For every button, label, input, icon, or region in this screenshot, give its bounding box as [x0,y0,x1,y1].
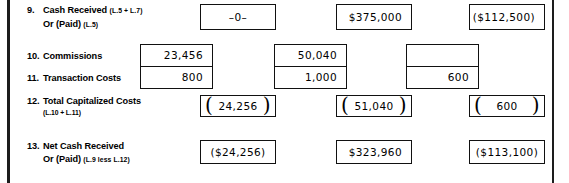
form-left-rule [7,0,10,183]
value-box-line9-col1[interactable]: –0– [200,4,276,30]
row-label-line-10: 10.Commissions [27,50,102,63]
row-number-13: 13. [27,140,43,153]
stacked-box-col1: 23,456 800 [140,44,213,89]
value-box-line13-col1[interactable]: ($24,256) [200,140,276,164]
value-box-line13-col2[interactable]: $323,960 [336,140,412,164]
row-number-9: 9. [27,4,43,17]
paren-close-icon: ) [263,95,271,115]
row-label-line-13: 13.Net Cash Received Or (Paid) (L.9 less… [27,140,130,166]
row-number-11: 11. [27,72,43,85]
stacked-box-col3: 600 [406,44,479,89]
row-title-11: Transaction Costs [43,73,121,83]
stacked-box-col2: 50,040 1,000 [274,44,347,89]
row-ref-9b: (L.5) [83,21,98,28]
value-box-line11-col3[interactable]: 600 [407,67,478,89]
form-right-rule [552,0,554,183]
row-ref-12: (L.10 + L.11) [27,108,141,118]
worksheet-figure: 9.Cash Received (L.5 + L.7) Or (Paid) (L… [0,0,569,183]
value-box-line13-col3[interactable]: ($113,100) [469,140,545,164]
row-title-9-line2: Or (Paid) [43,19,81,29]
row-title-13-line2: Or (Paid) [43,154,81,164]
value-box-line12-col2[interactable]: ( 51,040 ) [336,95,412,117]
value-line12-col3: 600 [482,100,532,112]
value-box-line10-col2[interactable]: 50,040 [275,45,346,67]
row-title-9: Cash Received [43,5,107,15]
value-line12-col1: 24,256 [213,100,263,112]
paren-close-icon: ) [532,95,540,115]
paren-open-icon: ( [474,95,482,115]
value-line12-col2: 51,040 [349,100,399,112]
row-title-12: Total Capitalized Costs [43,96,141,106]
row-title-10: Commissions [43,51,102,61]
value-box-line9-col3[interactable]: ($112,500) [469,4,545,30]
value-box-line12-col1[interactable]: ( 24,256 ) [200,95,276,117]
row-number-12: 12. [27,95,43,108]
row-ref-13: (L.9 less L.12) [83,156,129,163]
value-box-line11-col1[interactable]: 800 [141,67,212,89]
value-box-line10-col3[interactable] [407,45,478,67]
value-box-line12-col3[interactable]: ( 600 ) [469,95,545,117]
row-title-13: Net Cash Received [43,141,124,151]
paren-close-icon: ) [399,95,407,115]
row-number-10: 10. [27,50,43,63]
row-label-line-12: 12.Total Capitalized Costs (L.10 + L.11) [27,95,141,118]
row-label-line-9: 9.Cash Received (L.5 + L.7) Or (Paid) (L… [27,4,143,31]
value-box-line9-col2[interactable]: $375,000 [336,4,412,30]
paren-open-icon: ( [341,95,349,115]
row-ref-9a: (L.5 + L.7) [110,7,143,14]
value-box-line10-col1[interactable]: 23,456 [141,45,212,67]
row-label-line-11: 11.Transaction Costs [27,72,121,85]
paren-open-icon: ( [205,95,213,115]
value-box-line11-col2[interactable]: 1,000 [275,67,346,89]
